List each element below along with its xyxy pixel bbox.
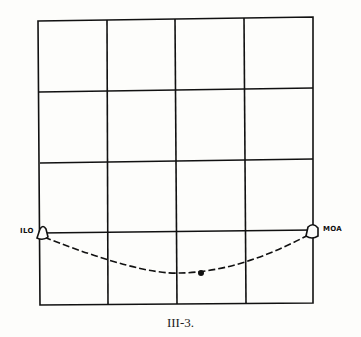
grid-lines	[38, 17, 313, 305]
station-label-ilo: ILO	[20, 227, 34, 235]
station-moa-icon	[306, 225, 318, 238]
figure-caption: III-3.	[0, 315, 361, 331]
grid-diagram	[0, 0, 361, 337]
marker-dot	[198, 270, 204, 276]
station-label-moa: MOA	[323, 225, 342, 233]
station-ilo-icon	[37, 227, 48, 240]
